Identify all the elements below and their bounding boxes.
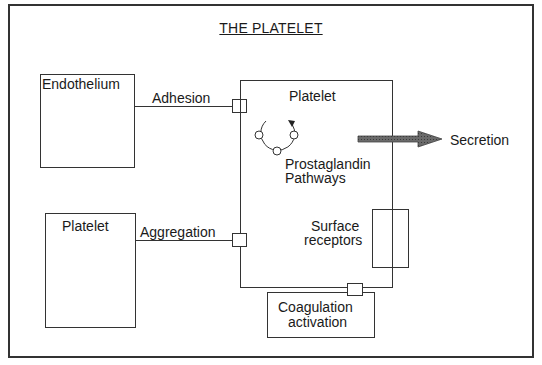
coagulation-receptor-square	[347, 283, 363, 296]
prostaglandin-cycle-icon	[254, 118, 304, 158]
surface-receptors-label-line2: receptors	[304, 233, 362, 248]
aggregation-line	[135, 240, 233, 241]
platelet-left-label: Platelet	[62, 219, 109, 234]
adhesion-label: Adhesion	[152, 91, 210, 106]
secretion-arrow-icon	[358, 130, 448, 150]
endothelium-label: Endothelium	[42, 77, 120, 92]
aggregation-label: Aggregation	[140, 225, 216, 240]
secretion-label: Secretion	[450, 133, 509, 148]
prostaglandin-label-line2: Pathways	[285, 171, 346, 186]
diagram-title: THE PLATELET	[0, 20, 542, 36]
aggregation-receptor-square	[232, 233, 247, 247]
surface-receptors-box	[372, 209, 409, 268]
coagulation-label-line2: activation	[288, 315, 347, 330]
platelet-main-label: Platelet	[289, 89, 336, 104]
coagulation-label-line1: Coagulation	[278, 300, 353, 315]
adhesion-line	[134, 106, 233, 107]
